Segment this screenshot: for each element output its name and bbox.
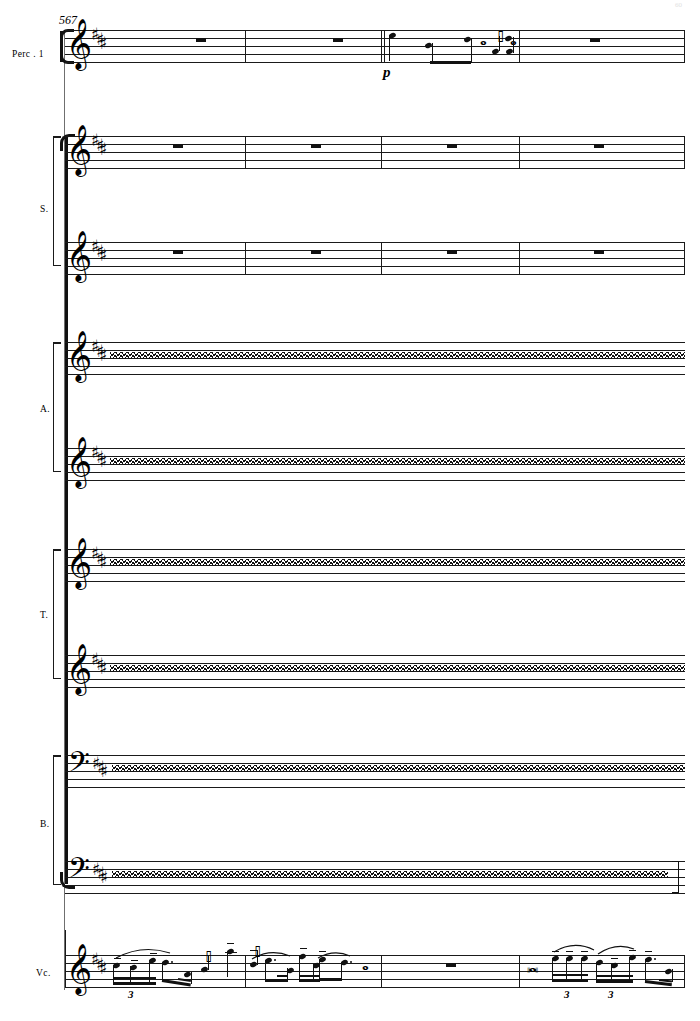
barline [381, 955, 382, 988]
whole-rest [173, 144, 183, 148]
barline [684, 136, 685, 169]
bass-clef-icon: 𝄢 [68, 748, 90, 782]
trill-wavy-line [110, 458, 685, 465]
note-stem [611, 964, 612, 981]
beam [552, 974, 588, 976]
augmentation-dot [171, 961, 173, 963]
tenuto-mark [150, 953, 157, 954]
eighth-flag-icon: 𝅚 [498, 26, 503, 45]
octave-below-label: 8 [76, 580, 81, 590]
beam [113, 977, 156, 979]
beam [430, 61, 471, 64]
augmentation-dot [654, 958, 656, 960]
tenuto-mark [566, 951, 573, 952]
whole-rest [447, 144, 457, 148]
page-number: 60 [675, 1, 682, 9]
bass-clef-icon: 𝄢 [68, 854, 90, 888]
barline [245, 242, 246, 275]
treble-clef-icon: 𝄞 [66, 439, 92, 483]
instrument-label-bass: B. [40, 819, 50, 829]
beam [265, 979, 288, 982]
key-sharp-icon: ♯ [96, 956, 104, 973]
tenuto-mark [596, 955, 603, 956]
barline [684, 955, 685, 988]
whole-rest [311, 250, 321, 254]
augmentation-dot [350, 961, 352, 963]
tenuto-mark [227, 943, 234, 944]
group-bracket-bass [53, 755, 61, 885]
key-sharp-icon: ♯ [97, 865, 105, 882]
beam [552, 979, 588, 982]
treble-clef-icon: 𝄞 [66, 233, 92, 277]
barline [381, 136, 382, 169]
tenuto-mark [163, 955, 170, 956]
eighth-rest: 𝅝 [480, 31, 487, 48]
barline [519, 30, 520, 63]
key-sharp-icon: ♯ [96, 31, 104, 48]
tenuto-mark [611, 958, 618, 959]
barline [381, 30, 382, 63]
trill-wavy-line [112, 765, 685, 772]
beam [277, 975, 288, 977]
perc1-staff [65, 30, 685, 63]
instrument-label-cello: Vc. [36, 968, 51, 978]
barline [519, 136, 520, 169]
quarter-rest: 𝅜 [527, 955, 538, 975]
octave-below-label: 8 [76, 686, 81, 696]
key-sharp-icon: ♯ [96, 550, 104, 567]
key-sharp-icon: ♯ [96, 137, 104, 154]
trill-wavy-line [110, 665, 685, 672]
eighth-rest: 𝅝 [362, 956, 369, 973]
trill-wavy-line [112, 871, 668, 878]
dynamic-marking: p [383, 64, 391, 81]
tenuto-mark [552, 951, 559, 952]
treble-clef-icon: 𝄞 [66, 646, 92, 690]
system-end-bracket [672, 861, 679, 893]
note-stem [471, 38, 472, 63]
trill-wavy-line [110, 352, 685, 359]
treble-clef-icon: 𝄞 [66, 127, 92, 171]
soprano-staff-1 [65, 136, 685, 169]
note-stem [149, 960, 150, 984]
barline [245, 955, 246, 988]
beam [299, 979, 320, 982]
note-stem [227, 951, 228, 977]
eighth-flag-icon: 𝅚 [255, 941, 260, 960]
instrument-label-perc1: Perc . 1 [12, 49, 44, 59]
beam [596, 975, 633, 977]
beam [299, 975, 320, 977]
tuplet-number: 3 [128, 988, 134, 1000]
barline [684, 242, 685, 275]
group-bracket-soprano [53, 136, 61, 266]
note-stem [581, 958, 582, 980]
treble-clef-icon: 𝄞 [66, 21, 92, 65]
trill-wavy-line [110, 559, 685, 566]
tuplet-number: 3 [608, 988, 614, 1000]
score-page: 60 567 Perc . 1 S. A. T. B. Vc. 𝄞 ♯ ♯ ♯ … [0, 0, 700, 1021]
barline [519, 242, 520, 275]
treble-clef-icon: 𝄞 [66, 946, 92, 990]
tuplet-number: 3 [564, 988, 570, 1000]
tenuto-mark [629, 950, 636, 951]
whole-rest [594, 144, 604, 148]
key-sharp-icon: ♯ [96, 656, 104, 673]
whole-rest [173, 250, 183, 254]
barline [381, 242, 382, 275]
barline [519, 955, 520, 988]
instrument-label-tenor: T. [40, 610, 48, 620]
tenuto-mark [300, 948, 307, 949]
key-sharp-icon: ♯ [96, 243, 104, 260]
soprano-staff-2 [65, 242, 685, 275]
key-sharp-icon: ♯ [96, 343, 104, 360]
key-sharp-icon: ♯ [97, 759, 105, 776]
tenuto-mark [581, 951, 588, 952]
barline [245, 136, 246, 169]
tenuto-mark [319, 951, 326, 952]
whole-rest [333, 38, 343, 42]
whole-rest [446, 963, 456, 967]
beam [596, 980, 633, 983]
barline [245, 30, 246, 63]
note-stem [552, 958, 553, 980]
beam [319, 978, 342, 981]
note-stem [566, 958, 567, 980]
